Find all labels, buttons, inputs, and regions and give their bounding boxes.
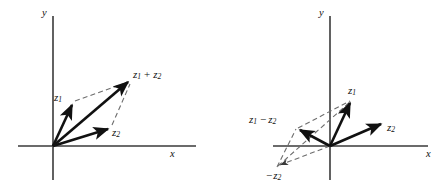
right-dashed-neg-z2 bbox=[280, 146, 330, 165]
left-y-axis-label: y bbox=[41, 7, 47, 18]
left-x-axis-label: x bbox=[169, 148, 175, 159]
left-label-sum-first-subscript: 1 bbox=[137, 72, 141, 81]
left-dashed-z1-to-sum bbox=[75, 82, 128, 101]
left-label-z2-subscript: 2 bbox=[116, 130, 120, 139]
right-label-neg-z2-subscript: 2 bbox=[278, 173, 282, 182]
right-label-z2-subscript: 2 bbox=[391, 125, 395, 134]
right-label-neg-operator: − bbox=[266, 169, 272, 181]
left-label-sum-second-subscript: 2 bbox=[158, 72, 162, 81]
left-label-z1-plus-z2: z1+z2 bbox=[132, 68, 162, 81]
right-label-diff-operator: − bbox=[260, 113, 266, 125]
right-dashed-negz2-to-diff bbox=[277, 129, 296, 167]
left-dashed-z2-to-sum bbox=[112, 84, 130, 125]
right-dashed-negz2-to-z1 bbox=[278, 101, 351, 166]
right-label-diff-first-subscript: 1 bbox=[253, 117, 257, 126]
complex-number-vector-diagram: y x z1 z2 z1+z2 y x bbox=[0, 0, 448, 189]
right-y-axis-label: y bbox=[318, 7, 324, 18]
right-x-axis-label: x bbox=[425, 148, 431, 159]
right-label-diff-second-subscript: 2 bbox=[273, 117, 277, 126]
right-label-neg-z2: −z2 bbox=[266, 169, 282, 182]
right-panel: y x z1 z2 z1−z2 −z2 bbox=[248, 7, 431, 182]
right-label-z1: z1 bbox=[347, 84, 356, 97]
left-label-z2: z2 bbox=[111, 126, 120, 139]
right-dashed-diff-to-z1 bbox=[298, 101, 350, 128]
left-label-z1: z1 bbox=[53, 91, 62, 104]
left-label-sum-operator: + bbox=[144, 68, 150, 80]
left-panel: y x z1 z2 z1+z2 bbox=[18, 7, 196, 180]
right-label-z2: z2 bbox=[386, 121, 395, 134]
diagram-canvas: y x z1 z2 z1+z2 y x bbox=[0, 0, 448, 189]
right-label-z1-minus-z2: z1−z2 bbox=[248, 113, 277, 126]
left-label-z1-subscript: 1 bbox=[58, 95, 62, 104]
right-label-z1-subscript: 1 bbox=[352, 88, 356, 97]
